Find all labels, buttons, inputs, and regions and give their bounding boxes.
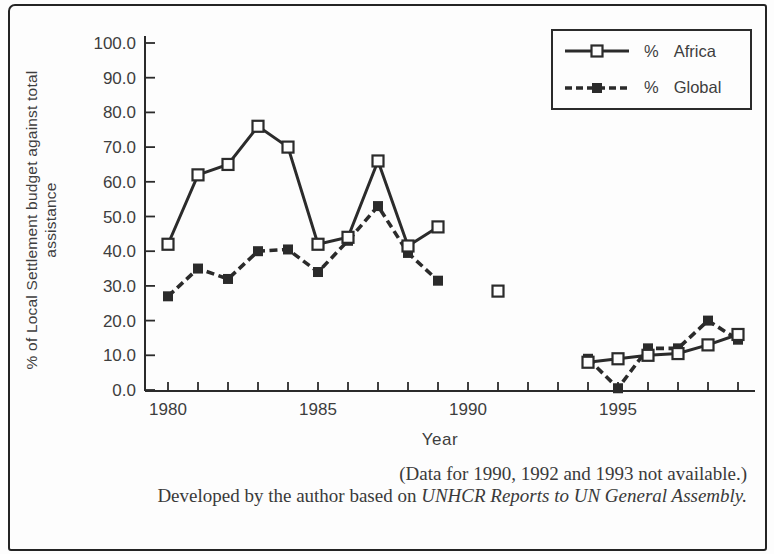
legend-percent-sign: %	[644, 78, 659, 97]
svg-text:30.0: 30.0	[103, 277, 136, 296]
legend: % Africa % Global	[551, 29, 752, 110]
svg-text:90.0: 90.0	[103, 69, 136, 88]
filled-square-marker-icon	[592, 83, 602, 93]
svg-text:80.0: 80.0	[103, 103, 136, 122]
svg-text:1980: 1980	[149, 400, 187, 419]
svg-text:10.0: 10.0	[103, 346, 136, 365]
open-square-marker-icon	[592, 46, 603, 57]
global-dashed-line-sample	[563, 78, 631, 98]
svg-text:60.0: 60.0	[103, 173, 136, 192]
svg-text:0.0: 0.0	[112, 381, 136, 400]
svg-text:40.0: 40.0	[103, 242, 136, 261]
legend-label-global: Global	[674, 78, 722, 97]
svg-text:70.0: 70.0	[103, 138, 136, 157]
svg-text:20.0: 20.0	[103, 312, 136, 331]
svg-text:1985: 1985	[299, 400, 337, 419]
figure: 0.010.020.030.040.050.060.070.080.090.01…	[0, 0, 774, 554]
x-axis-title: Year	[395, 430, 485, 450]
y-axis-title: % of Local Settlement budget against tot…	[22, 47, 60, 393]
svg-text:100.0: 100.0	[93, 34, 136, 53]
source-credit: Developed by the author based on UNHCR R…	[157, 485, 747, 507]
svg-text:50.0: 50.0	[103, 208, 136, 227]
africa-solid-line-sample	[563, 41, 631, 61]
source-credit-prefix: Developed by the author based on	[157, 485, 421, 506]
legend-item-africa: % Africa	[563, 41, 750, 61]
legend-percent-sign: %	[644, 42, 659, 61]
svg-text:1990: 1990	[449, 400, 487, 419]
source-credit-title: UNHCR Reports to UN General Assembly.	[421, 485, 747, 506]
legend-label-africa: Africa	[674, 42, 716, 61]
svg-text:1995: 1995	[599, 400, 637, 419]
data-availability-note: (Data for 1990, 1992 and 1993 not availa…	[399, 463, 747, 485]
legend-item-global: % Global	[563, 78, 750, 98]
